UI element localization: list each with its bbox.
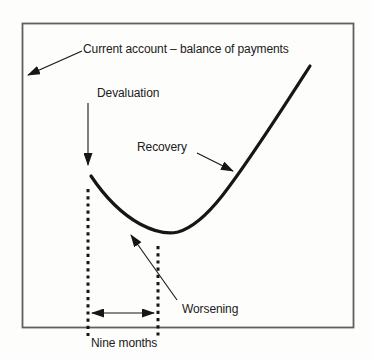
recovery-label: Recovery	[137, 140, 187, 154]
worsening-arrow	[131, 235, 177, 300]
j-curve-diagram: Current account – balance of payments De…	[0, 0, 372, 359]
worsening-label: Worsening	[182, 302, 238, 316]
nine-months-label: Nine months	[91, 336, 157, 350]
title-label: Current account – balance of payments	[83, 42, 289, 56]
title-leader-arrow	[28, 51, 82, 75]
plot-frame	[23, 24, 354, 328]
recovery-arrow	[197, 153, 233, 171]
devaluation-label: Devaluation	[97, 86, 159, 100]
